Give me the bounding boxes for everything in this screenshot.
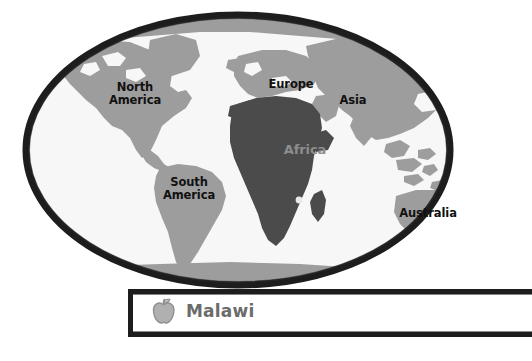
apple-icon <box>146 296 180 330</box>
info-bar-bottom-border-texture <box>128 331 532 333</box>
malawi-location-dot <box>296 197 303 204</box>
country-name-label: Malawi <box>186 301 254 321</box>
country-info-bar: Malawi <box>128 289 532 337</box>
info-bar-left-border <box>128 289 133 337</box>
info-bar-top-border-texture <box>128 293 532 295</box>
